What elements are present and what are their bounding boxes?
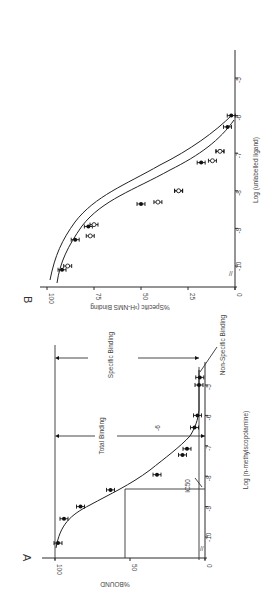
y-tick-label: 50 (142, 293, 149, 301)
axis-break-b: // (229, 270, 233, 277)
y-tick-label: 50 (131, 564, 138, 572)
data-point (139, 202, 143, 206)
panel-a: A 050100 -10-9-8-7-6-5 %BOUND Log (n-met… (21, 314, 250, 588)
panel-a-label: A (21, 554, 33, 562)
panel-b-y-axis-label: %Specific (³H-NMS Binding (90, 303, 170, 311)
x-tick-label: -8 (235, 190, 242, 196)
arrowhead (55, 434, 59, 438)
panel-a-x-ticks: -10-9-8-7-6-5 (205, 384, 212, 542)
data-point (92, 223, 96, 227)
x-tick-label: -7 (235, 152, 242, 158)
axis-break-a: // (200, 545, 204, 552)
panel-b-x-ticks: -10-9-8-7-6-5 (235, 77, 242, 271)
panel-a-x-axis-label: Log (n-methylscopolamine) (242, 411, 250, 489)
data-point (79, 505, 83, 509)
panel-a-y-axis-label: %BOUND (100, 581, 130, 588)
arrowhead (55, 356, 59, 360)
specific-binding-label: Specific Binding (107, 331, 115, 378)
ic50-label: IC50 (184, 479, 191, 493)
total-binding-label: Total Binding (98, 417, 106, 455)
data-point (73, 238, 77, 242)
y-tick-label: 0 (206, 564, 213, 568)
data-point (88, 234, 92, 238)
data-point (60, 268, 64, 272)
panel-a-y-ticks: 050100 (55, 558, 213, 575)
data-point (198, 375, 202, 379)
y-tick-label: 25 (189, 293, 196, 301)
panel-a-curve (56, 370, 199, 548)
data-point (177, 189, 181, 193)
data-point (181, 453, 185, 457)
x-tick-label: -8 (205, 475, 212, 481)
panel-b-label: B (22, 296, 34, 303)
data-point (199, 161, 203, 165)
panel-b-curve-open (57, 120, 234, 283)
x-tick-label: -6 (235, 114, 242, 120)
y-tick-label: 100 (56, 564, 63, 575)
arrowhead (195, 356, 199, 360)
data-point (196, 413, 200, 417)
minus6-label: -6 (154, 425, 161, 431)
ic50-pointer (195, 478, 202, 487)
y-tick-label: 100 (48, 293, 55, 304)
y-tick-label: 0 (236, 293, 243, 297)
non-specific-label: Non-Specific Binding (219, 314, 227, 375)
data-point (156, 200, 160, 204)
data-point (56, 541, 60, 545)
x-tick-label: -10 (205, 532, 212, 542)
x-tick-label: -5 (205, 384, 212, 390)
data-point (197, 383, 201, 387)
x-tick-label: -6 (205, 414, 212, 420)
figure: B 0255075100 -10-9-8-7-6-5 %Specific (³H… (0, 0, 271, 599)
data-point (62, 517, 66, 521)
data-point (218, 149, 222, 153)
panel-b: B 0255075100 -10-9-8-7-6-5 %Specific (³H… (22, 50, 260, 311)
data-point (185, 447, 189, 451)
panel-b-x-axis-label: Log (unlabelled ligand) (252, 137, 260, 203)
x-tick-label: -10 (235, 261, 242, 271)
x-tick-label: -5 (235, 77, 242, 83)
x-tick-label: -7 (205, 445, 212, 451)
data-point (109, 488, 113, 492)
data-point (193, 426, 197, 430)
x-tick-label: -9 (235, 227, 242, 233)
data-point (225, 125, 229, 129)
x-tick-label: -9 (205, 505, 212, 511)
non-specific-pointer (200, 347, 217, 372)
y-tick-label: 75 (95, 293, 102, 301)
panel-a-points (54, 375, 204, 545)
panel-b-curve-filled (50, 115, 232, 280)
panel-b-points (58, 114, 235, 272)
panel-b-y-ticks: 0255075100 (47, 287, 243, 304)
data-point (155, 473, 159, 477)
data-point (66, 264, 70, 268)
data-point (229, 114, 233, 118)
data-point (210, 159, 214, 163)
arrowhead (201, 434, 205, 438)
